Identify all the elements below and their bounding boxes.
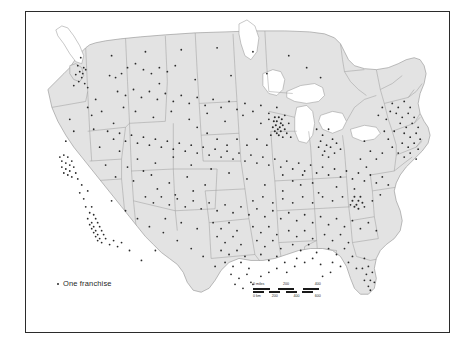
- scale-km-labels: 0 km 200 400 600: [253, 293, 319, 300]
- coastal-detail-northwest: [56, 26, 84, 82]
- scale-km-tick-1: 200: [272, 293, 278, 300]
- scale-miles-tick-2: 400: [315, 281, 321, 288]
- scale-miles-labels: 0 miles 200 400: [253, 281, 319, 288]
- scale-miles-tick-1: 200: [283, 281, 289, 288]
- map-legend: One franchise: [57, 280, 112, 288]
- scale-km-unit: 0 km: [253, 293, 261, 300]
- scale-seg-m1: [270, 288, 278, 290]
- scale-miles-unit: 0 miles: [253, 281, 264, 288]
- scale-seg-m2: [294, 288, 302, 290]
- scale-track-miles: [253, 288, 319, 290]
- franchise-dot-icon: [57, 283, 59, 285]
- scale-bar: 0 miles 200 400 0 km 200 400 600: [253, 281, 319, 300]
- scale-km-tick-3: 600: [315, 293, 321, 300]
- scale-km-tick-2: 400: [294, 293, 300, 300]
- legend-label: One franchise: [63, 280, 112, 288]
- land-mass: [48, 31, 430, 294]
- figure-container: One franchise 0 miles 200 400 0 km 200 4…: [0, 0, 472, 345]
